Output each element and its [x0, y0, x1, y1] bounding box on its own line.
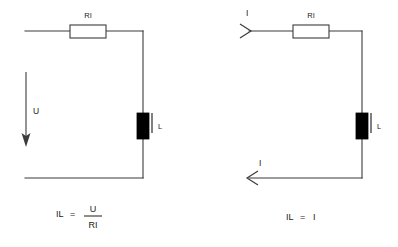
figure-root: RI L U IL = U RI: [0, 0, 398, 247]
right-formula-lhs: IL: [286, 212, 294, 222]
right-current-out-label: I: [259, 158, 261, 168]
right-current-in-label: I: [246, 8, 248, 18]
right-formula-rhs: I: [313, 212, 316, 222]
right-resistor-symbol: [293, 25, 329, 38]
left-formula-lhs: IL: [56, 209, 64, 219]
left-formula-denominator: RI: [89, 220, 98, 230]
right-formula-group: IL = I: [286, 212, 316, 222]
right-resistor-label: RI: [307, 11, 315, 20]
left-circuit-group: RI L U IL = U RI: [22, 11, 163, 230]
circuit-diagram-canvas: RI L U IL = U RI: [0, 0, 398, 247]
left-formula-equals: =: [70, 209, 75, 219]
right-formula-equals: =: [300, 212, 305, 222]
right-inductor-label: L: [377, 122, 381, 131]
left-formula-group: IL = U RI: [56, 204, 102, 230]
left-formula-numerator: U: [90, 204, 97, 214]
left-voltage-label: U: [33, 106, 39, 116]
left-inductor-symbol: [137, 113, 149, 139]
left-resistor-symbol: [70, 25, 106, 38]
right-inductor-symbol: [356, 113, 368, 139]
right-circuit-group: RI L I I IL = I: [240, 8, 381, 222]
left-resistor-label: RI: [84, 11, 92, 20]
left-inductor-label: L: [158, 122, 162, 131]
